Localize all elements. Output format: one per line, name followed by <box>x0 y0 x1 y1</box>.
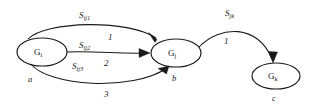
node-label-gj-base: G <box>168 48 175 58</box>
node-label-gi-sub: i <box>41 51 43 58</box>
edge-label-sjk: Sjk <box>225 9 234 18</box>
edge-label-sij1-base: S <box>79 10 84 20</box>
edge-path-sij2 <box>67 52 146 53</box>
edge-path-sjk <box>199 31 272 59</box>
edge-weight-sij3: 3 <box>104 90 109 99</box>
node-tag-a: a <box>28 75 32 84</box>
edge-weight-sij1: 1 <box>108 33 113 42</box>
node-label-gi-base: G <box>34 47 41 57</box>
edge-label-sij1: Sij1 <box>79 11 90 20</box>
node-tag-b: b <box>172 74 176 83</box>
edge-label-sjk-sub: jk <box>230 12 235 19</box>
node-label-gj: Gj <box>168 49 176 58</box>
graph-diagram: Gi Gj Gk a b c Sij1 Sij2 Sij3 Sjk 1 2 3 … <box>0 0 310 106</box>
node-label-gk-base: G <box>268 71 275 81</box>
graph-canvas <box>0 0 310 106</box>
edge-path-sij1 <box>28 25 156 39</box>
edge-path-sij3 <box>31 64 167 83</box>
node-label-gk: Gk <box>268 72 278 81</box>
edge-arrowhead-sij2 <box>139 49 150 58</box>
node-label-gi: Gi <box>34 48 42 57</box>
edge-label-sij2-sub: ij2 <box>84 44 91 51</box>
edge-weight-sjk: 1 <box>224 37 229 46</box>
edge-label-sij2: Sij2 <box>79 41 90 50</box>
node-label-gk-sub: k <box>275 75 278 82</box>
edge-label-sij3: Sij3 <box>72 62 83 71</box>
edge-arrowhead-sjk <box>269 52 278 64</box>
edge-label-sij3-base: S <box>72 61 77 71</box>
edge-label-sjk-base: S <box>225 8 230 18</box>
node-label-gj-sub: j <box>175 52 177 59</box>
edge-label-sij1-sub: ij1 <box>84 14 91 21</box>
edge-weight-sij2: 2 <box>104 59 109 68</box>
node-tag-c: c <box>272 94 276 103</box>
edge-label-sij2-base: S <box>79 40 84 50</box>
edge-label-sij3-sub: ij3 <box>77 65 84 72</box>
